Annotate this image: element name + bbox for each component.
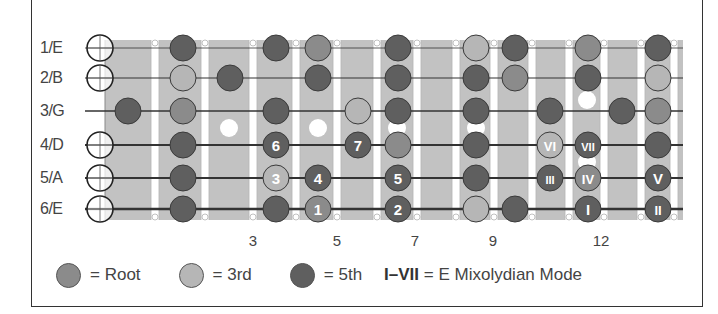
fret-wire	[600, 40, 608, 220]
fret-wire	[373, 40, 381, 220]
third-note-dot	[170, 65, 196, 91]
root-note-dot	[170, 98, 196, 124]
scale-degree-label: 5	[394, 170, 402, 187]
fret-marker-icon	[152, 214, 158, 220]
fret-space	[679, 40, 683, 220]
fret-marker-icon	[374, 40, 380, 46]
fret-marker-icon	[202, 40, 208, 46]
fret-marker-icon	[529, 40, 535, 46]
scale-degree-label: VII	[581, 141, 594, 153]
fifth-note-dot	[385, 98, 411, 124]
fret-marker-icon	[293, 214, 299, 220]
fret-number: 3	[249, 232, 257, 249]
third-note-dot	[463, 196, 489, 222]
fret-marker-icon	[638, 40, 644, 46]
scale-degree-label: VI	[544, 139, 556, 154]
fifth-note-dot	[385, 65, 411, 91]
fret-marker-icon	[566, 214, 572, 220]
legend-fifth-label: = 5th	[324, 265, 362, 285]
fret-wire	[637, 40, 645, 220]
root-note-dot	[645, 98, 671, 124]
fret-wire	[452, 40, 460, 220]
root-note-dot	[575, 35, 601, 61]
fret-space	[609, 40, 636, 220]
scale-degree-label: 6	[272, 137, 280, 154]
fifth-note-dot	[645, 132, 671, 158]
fifth-note-dot	[217, 65, 243, 91]
fret-wire	[490, 40, 498, 220]
fret-marker-icon	[374, 214, 380, 220]
fifth-dot-icon	[290, 263, 315, 288]
scale-degree-label: IV	[582, 172, 595, 187]
fifth-note-dot	[115, 98, 141, 124]
fifth-note-dot	[463, 65, 489, 91]
scale-degree-label: 3	[272, 170, 280, 187]
scale-degree-label: III	[545, 174, 554, 186]
fret-marker-icon	[250, 214, 256, 220]
legend-root-label: = Root	[90, 265, 141, 285]
fret-number: 5	[333, 232, 341, 249]
scale-degree-label: 2	[394, 201, 402, 218]
fifth-note-dot	[645, 35, 671, 61]
fifth-note-dot	[170, 35, 196, 61]
fret-marker-icon	[671, 214, 677, 220]
fret-wire	[413, 40, 421, 220]
fifth-note-dot	[463, 132, 489, 158]
fret-marker-icon	[334, 214, 340, 220]
fret-marker-icon	[414, 40, 420, 46]
legend-mode: I–VII = E Mixolydian Mode	[384, 265, 582, 285]
string-label: 2/B	[40, 69, 88, 87]
fifth-note-dot	[170, 196, 196, 222]
string-label: 5/A	[40, 169, 88, 187]
string-label: 4/D	[40, 136, 88, 154]
third-note-dot	[645, 65, 671, 91]
string-label: 3/G	[40, 102, 88, 120]
fret-marker-icon	[491, 214, 497, 220]
root-dot-icon	[56, 263, 81, 288]
scale-degree-label: 4	[314, 170, 323, 187]
fifth-note-dot	[502, 196, 528, 222]
legend-third-label: = 3rd	[213, 265, 252, 285]
fret-marker-icon	[529, 214, 535, 220]
fret-space	[105, 40, 150, 220]
fifth-note-dot	[263, 98, 289, 124]
legend-mode-range: I–VII	[384, 265, 419, 285]
fifth-note-dot	[463, 165, 489, 191]
fifth-note-dot	[263, 35, 289, 61]
fret-number: 12	[593, 232, 610, 249]
fret-wire	[670, 40, 678, 220]
legend-fifth: = 5th	[290, 263, 362, 288]
scale-degree-label: 1	[314, 201, 322, 218]
fret-space	[342, 40, 372, 220]
fifth-note-dot	[170, 165, 196, 191]
fret-space	[422, 40, 451, 220]
scale-degree-label: I	[586, 201, 590, 218]
legend-root: = Root	[56, 263, 141, 288]
legend-third: = 3rd	[179, 263, 252, 288]
scale-degree-label: V	[653, 170, 663, 187]
fret-marker-icon	[566, 40, 572, 46]
fret-space	[258, 40, 291, 220]
fret-marker-icon	[414, 214, 420, 220]
scale-degree-label: 7	[354, 137, 362, 154]
root-note-dot	[385, 132, 411, 158]
fretboard: 67VIVII345IIIIVV12III	[0, 0, 718, 230]
fret-marker-icon	[671, 40, 677, 46]
legend: = Root = 3rd = 5th I–VII = E Mixolydian …	[56, 262, 620, 288]
fifth-note-dot	[502, 35, 528, 61]
fret-wire	[151, 40, 159, 220]
fifth-note-dot	[537, 98, 563, 124]
fret-wire	[292, 40, 300, 220]
inlay-dot-icon	[578, 91, 596, 109]
third-dot-icon	[179, 263, 204, 288]
fret-marker-icon	[152, 40, 158, 46]
fret-marker-icon	[293, 40, 299, 46]
root-note-dot	[305, 35, 331, 61]
fret-marker-icon	[601, 214, 607, 220]
root-note-dot	[502, 65, 528, 91]
fret-marker-icon	[250, 40, 256, 46]
fifth-note-dot	[170, 132, 196, 158]
fret-space	[537, 40, 564, 220]
fret-wire	[201, 40, 209, 220]
inlay-dot-icon	[220, 119, 238, 137]
